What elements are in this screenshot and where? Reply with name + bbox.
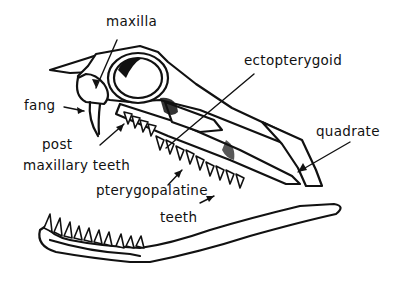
- label-maxillary-teeth: maxillary teeth: [23, 158, 130, 173]
- label-pterygopalatine: pterygopalatine: [96, 183, 208, 198]
- label-quadrate: quadrate: [316, 124, 380, 139]
- label-teeth: teeth: [160, 210, 197, 225]
- label-maxilla: maxilla: [106, 14, 157, 29]
- label-ectopterygoid: ectopterygoid: [244, 53, 342, 68]
- pterygoid-bar: [116, 104, 300, 184]
- fang-arrowhead: [77, 107, 84, 114]
- fang-tooth: [90, 102, 98, 136]
- fang-tooth-back: [99, 104, 100, 134]
- snake-skull-diagram: maxilla ectopterygoid fang post maxillar…: [0, 0, 404, 282]
- label-post: post: [42, 137, 72, 152]
- label-fang: fang: [24, 98, 55, 113]
